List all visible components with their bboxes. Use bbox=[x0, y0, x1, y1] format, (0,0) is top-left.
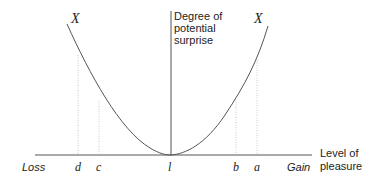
y-axis-label-line1: Degree of bbox=[174, 10, 223, 22]
y-axis-label-line2: potential bbox=[174, 22, 216, 34]
tick-label-a: a bbox=[254, 160, 260, 174]
tick-label-b: b bbox=[233, 160, 239, 174]
tick-label-c: c bbox=[96, 160, 102, 174]
x-axis-loss-label: Loss bbox=[22, 161, 46, 173]
x-axis-label-line2: pleasure bbox=[320, 160, 362, 172]
tick-label-origin: l bbox=[168, 160, 172, 174]
y-axis-label-line3: surprise bbox=[174, 34, 213, 46]
tick-label-d: d bbox=[75, 160, 82, 174]
curve-label-left: X bbox=[70, 11, 80, 26]
surprise-curve-left bbox=[67, 24, 171, 155]
curve-label-right: X bbox=[253, 11, 263, 26]
x-axis-label-line1: Level of bbox=[320, 147, 359, 159]
x-axis-gain-label: Gain bbox=[287, 161, 310, 173]
potential-surprise-diagram: X X Degree of potential surprise Level o… bbox=[0, 0, 384, 184]
